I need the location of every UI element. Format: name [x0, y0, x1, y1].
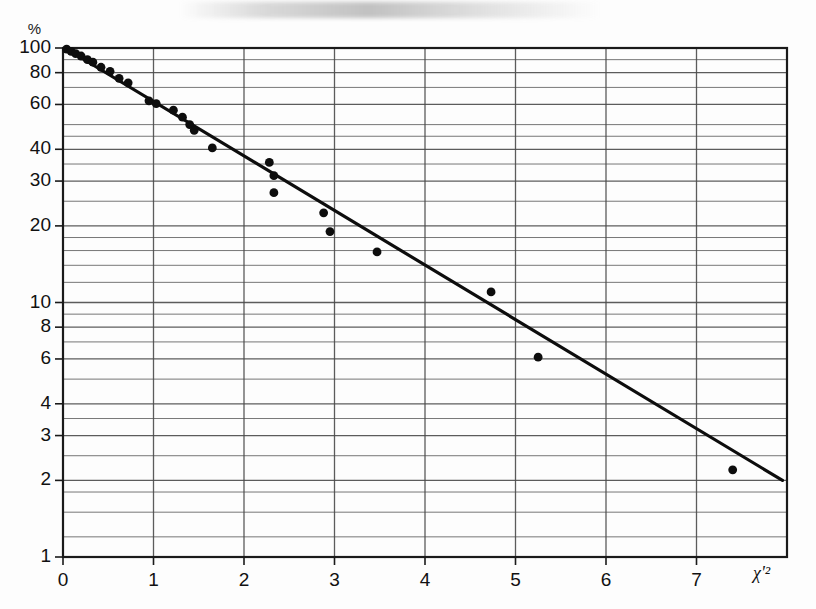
- data-point: [265, 158, 274, 167]
- data-point: [269, 171, 278, 180]
- x-tick-label: 3: [315, 569, 355, 591]
- data-point: [97, 63, 106, 72]
- y-tick-label: 6: [40, 347, 51, 369]
- y-tick-label: 40: [30, 137, 51, 159]
- data-point: [124, 78, 133, 87]
- x-tick-label: 7: [677, 569, 717, 591]
- data-point: [88, 58, 97, 67]
- data-point: [326, 227, 335, 236]
- y-tick-label: 30: [30, 169, 51, 191]
- x-tick-label: 6: [586, 569, 626, 591]
- data-point: [487, 288, 496, 297]
- y-tick-label: 8: [40, 315, 51, 337]
- y-tick-label: 60: [30, 92, 51, 114]
- y-tick-label: 10: [30, 291, 51, 313]
- x-tick-label: 4: [405, 569, 445, 591]
- data-point: [534, 353, 543, 362]
- data-point: [190, 126, 199, 135]
- y-tick-label: 2: [40, 468, 51, 490]
- semi-log-scatter-plot: [0, 0, 816, 609]
- data-point: [269, 188, 278, 197]
- y-tick-label: 4: [40, 392, 51, 414]
- y-tick-label: 1: [40, 545, 51, 567]
- data-point: [169, 106, 178, 115]
- x-tick-label: 1: [134, 569, 174, 591]
- x-tick-label: 2: [224, 569, 264, 591]
- data-point: [106, 67, 115, 76]
- y-tick-label: 20: [30, 214, 51, 236]
- x-tick-label: 5: [496, 569, 536, 591]
- data-point: [319, 208, 328, 217]
- data-point: [728, 465, 737, 474]
- data-point: [115, 74, 124, 83]
- data-point: [373, 248, 382, 257]
- data-point: [178, 113, 187, 122]
- axis-ticks: [55, 48, 697, 565]
- y-tick-label: 100: [19, 36, 51, 58]
- y-axis-unit-label: %: [28, 20, 41, 37]
- y-tick-label: 3: [40, 424, 51, 446]
- x-tick-label: 0: [43, 569, 83, 591]
- x-axis-title: χ'²: [753, 563, 770, 584]
- data-point: [208, 144, 217, 153]
- chart-figure: % 100806040302010864321 01234567 χ'²: [0, 0, 816, 609]
- data-point: [152, 99, 161, 108]
- y-tick-label: 80: [30, 61, 51, 83]
- scan-artifact: [180, 2, 600, 18]
